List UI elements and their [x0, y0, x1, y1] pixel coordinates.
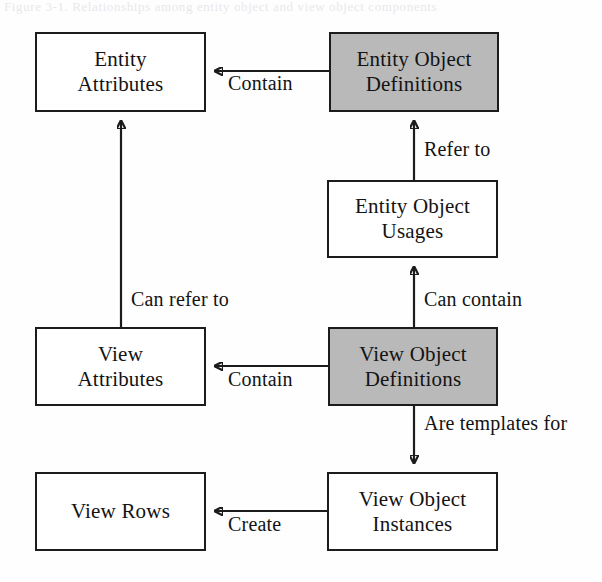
- node-label-line: Definitions: [366, 72, 463, 97]
- diagram-canvas: Figure 3-1. Relationships among entity o…: [0, 0, 602, 582]
- node-label-line: Definitions: [365, 367, 462, 392]
- node-label-line: View Rows: [71, 499, 170, 524]
- edge-label-are-templates-for: Are templates for: [424, 412, 567, 435]
- node-entity-attributes: Entity Attributes: [35, 32, 206, 112]
- node-view-rows: View Rows: [35, 472, 206, 551]
- node-entity-object-definitions: Entity Object Definitions: [329, 32, 499, 112]
- edge-label-contain-view: Contain: [228, 368, 293, 391]
- node-label-line: Usages: [382, 219, 444, 244]
- node-label-line: Entity Object: [356, 47, 471, 72]
- edge-label-create: Create: [228, 513, 281, 536]
- edge-label-refer-to: Refer to: [424, 138, 491, 161]
- node-label-line: View: [98, 342, 143, 367]
- node-label-line: Attributes: [78, 72, 164, 97]
- node-label-line: Attributes: [78, 367, 164, 392]
- node-label-line: Entity Object: [355, 194, 470, 219]
- node-entity-object-usages: Entity Object Usages: [327, 180, 498, 258]
- edge-label-can-refer-to: Can refer to: [131, 288, 229, 311]
- node-label-line: View Object: [359, 342, 467, 367]
- edge-label-contain-entity: Contain: [228, 72, 293, 95]
- node-view-object-definitions: View Object Definitions: [328, 327, 498, 406]
- figure-caption-remnant: Figure 3-1. Relationships among entity o…: [0, 0, 602, 16]
- node-label-line: View Object: [359, 487, 467, 512]
- edge-label-can-contain: Can contain: [424, 288, 522, 311]
- node-view-attributes: View Attributes: [35, 327, 206, 406]
- node-label-line: Entity: [94, 47, 147, 72]
- node-view-object-instances: View Object Instances: [327, 472, 498, 551]
- node-label-line: Instances: [373, 512, 453, 537]
